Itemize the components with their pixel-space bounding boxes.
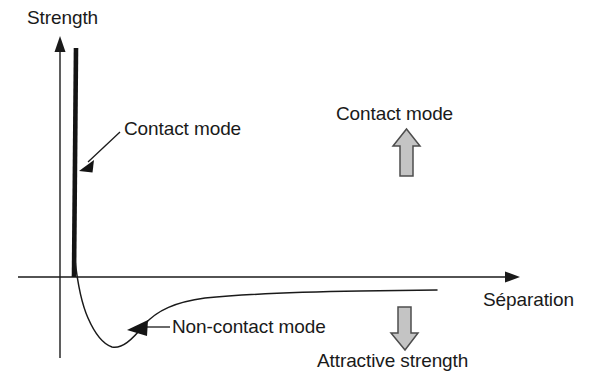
- arrowhead-down-left-icon: [79, 160, 94, 173]
- contact-branch-thick-bar: [74, 48, 76, 277]
- attractive-strength-region-label: Attractive strength: [317, 351, 468, 370]
- non-contact-mode-callout-label: Non-contact mode: [172, 317, 326, 336]
- contact-mode-region-label: Contact mode: [336, 104, 453, 123]
- contact-mode-callout-leader: [88, 132, 120, 162]
- x-axis-label: Séparation: [483, 290, 574, 309]
- force-distance-curve-figure: Strength Séparation Contact mode Non-con…: [0, 0, 592, 383]
- arrowhead-up-icon: [55, 36, 66, 52]
- contact-mode-callout-label: Contact mode: [124, 119, 241, 138]
- arrow-down-block-icon: [391, 307, 418, 350]
- arrow-up-block-icon: [393, 129, 420, 176]
- arrowhead-right-icon: [505, 272, 520, 283]
- y-axis-label: Strength: [27, 8, 98, 27]
